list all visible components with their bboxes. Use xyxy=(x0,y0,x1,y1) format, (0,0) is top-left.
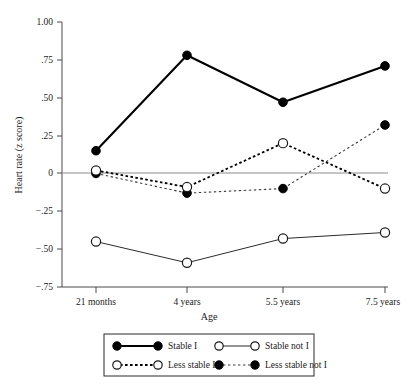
filled-circle-icon xyxy=(251,361,259,369)
y-tick-label: .25 xyxy=(41,131,53,141)
open-circle-icon xyxy=(154,361,162,369)
filled-circle-icon xyxy=(381,121,390,130)
y-tick-label: −.25 xyxy=(36,206,53,216)
filled-circle-icon xyxy=(183,51,192,60)
x-tick-label: 5.5 years xyxy=(266,297,301,307)
open-circle-icon xyxy=(91,166,100,175)
figure-container: 1.00 .75 .50 .25 0 −.25 −.50 −.75 Heart … xyxy=(0,0,418,386)
y-tick-label: 0 xyxy=(48,168,53,178)
legend-label: Stable not I xyxy=(265,341,309,351)
open-circle-icon xyxy=(182,258,191,267)
open-circle-icon xyxy=(91,237,100,246)
chart-background xyxy=(0,0,418,386)
filled-circle-icon xyxy=(113,342,121,350)
open-circle-icon xyxy=(380,228,389,237)
y-tick-label: −.50 xyxy=(36,244,53,254)
y-tick-label: −.75 xyxy=(36,282,53,292)
open-circle-icon xyxy=(182,182,191,191)
open-circle-icon xyxy=(278,234,287,243)
open-circle-icon xyxy=(278,139,287,148)
y-axis-title: Heart rate (z score) xyxy=(13,117,25,194)
legend-label: Less stable I xyxy=(168,360,216,370)
y-tick-label: 1.00 xyxy=(36,17,53,27)
y-tick-label: .50 xyxy=(41,93,53,103)
legend-label: Stable I xyxy=(168,341,197,351)
x-tick-label: 21 months xyxy=(76,297,116,307)
legend-label: Less stable not I xyxy=(265,360,327,370)
filled-circle-icon xyxy=(92,146,101,155)
x-tick-label: 7.5 years xyxy=(366,297,401,307)
open-circle-icon xyxy=(251,342,259,350)
open-circle-icon xyxy=(215,342,223,350)
filled-circle-icon xyxy=(215,361,223,369)
chart-legend: Stable I Stable not I Less stable I xyxy=(104,334,327,376)
line-chart: 1.00 .75 .50 .25 0 −.25 −.50 −.75 Heart … xyxy=(0,0,418,386)
filled-circle-icon xyxy=(381,62,390,71)
filled-circle-icon xyxy=(279,98,288,107)
open-circle-icon xyxy=(380,184,389,193)
filled-circle-icon xyxy=(279,184,288,193)
x-axis-title: Age xyxy=(201,311,218,322)
y-tick-label: .75 xyxy=(41,55,53,65)
filled-circle-icon xyxy=(154,342,162,350)
x-tick-label: 4 years xyxy=(173,297,200,307)
open-circle-icon xyxy=(113,361,121,369)
